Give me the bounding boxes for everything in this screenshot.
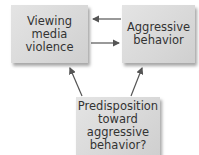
- node-label-line: behavior?: [78, 139, 158, 152]
- node-aggressive-behavior: Aggressive behavior: [122, 5, 195, 63]
- node-label-line: violence: [26, 41, 74, 54]
- node-label-line: Viewing: [26, 15, 74, 28]
- node-label-line: media: [26, 28, 74, 41]
- node-label-line: behavior: [127, 34, 190, 47]
- arrow-predisposition-to-aggressive: [131, 68, 142, 96]
- node-viewing-media-violence: Viewing media violence: [11, 5, 88, 63]
- node-predisposition: Predisposition toward aggressive behavio…: [76, 97, 160, 155]
- arrow-predisposition-to-viewing: [70, 68, 82, 96]
